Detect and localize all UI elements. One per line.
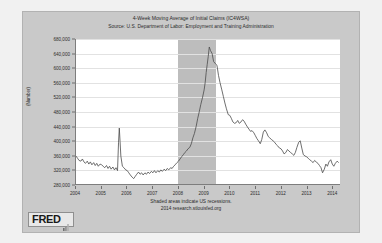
y-axis-tick-label: 560,000 bbox=[53, 80, 70, 85]
x-axis-tick bbox=[178, 186, 179, 189]
chart-subtitle: Source: U.S. Department of Labor: Employ… bbox=[23, 23, 359, 31]
x-axis-labels: 2004200520062007200820092010201120122013… bbox=[75, 186, 340, 198]
y-axis-tick-label: 520,000 bbox=[53, 95, 70, 100]
y-axis-tick-label: 280,000 bbox=[53, 183, 70, 188]
y-axis-tick-label: 440,000 bbox=[53, 124, 70, 129]
y-axis-tick-label: 600,000 bbox=[53, 66, 70, 71]
y-axis-labels: 680,000640,000600,000560,000520,000480,0… bbox=[23, 39, 75, 185]
series-line-1 bbox=[76, 47, 339, 179]
fred-chart-image: 4-Week Moving Average of Initial Claims … bbox=[22, 11, 360, 233]
x-axis-tick bbox=[75, 186, 76, 189]
series-line-layer bbox=[76, 39, 340, 184]
y-axis-tick-label: 640,000 bbox=[53, 51, 70, 56]
y-axis-tick-label: 360,000 bbox=[53, 153, 70, 158]
chart-footer: Shaded areas indicate US recessions. 201… bbox=[23, 198, 359, 212]
x-axis-tick bbox=[204, 186, 205, 189]
x-axis-tick-label: 2007 bbox=[147, 191, 157, 196]
x-axis-tick-label: 2006 bbox=[121, 191, 131, 196]
recession-note: Shaded areas indicate US recessions. bbox=[23, 198, 359, 205]
x-axis-tick-label: 2013 bbox=[301, 191, 311, 196]
x-axis-tick-label: 2010 bbox=[224, 191, 234, 196]
fred-logo-text: FRED bbox=[32, 214, 61, 225]
x-axis-tick bbox=[255, 186, 256, 189]
chart-titles: 4-Week Moving Average of Initial Claims … bbox=[23, 15, 359, 30]
x-axis-tick bbox=[126, 186, 127, 189]
fred-graph-mark-icon bbox=[63, 217, 70, 224]
x-axis-tick bbox=[229, 186, 230, 189]
y-axis-tick-label: 680,000 bbox=[53, 37, 70, 42]
x-axis-tick-label: 2012 bbox=[276, 191, 286, 196]
plot-area bbox=[75, 39, 340, 185]
fred-logo: FRED bbox=[28, 212, 74, 227]
x-axis-tick bbox=[152, 186, 153, 189]
x-axis-tick-label: 2008 bbox=[173, 191, 183, 196]
x-axis-tick bbox=[307, 186, 308, 189]
y-axis-tick-label: 480,000 bbox=[53, 110, 70, 115]
x-axis-tick-label: 2011 bbox=[250, 191, 260, 196]
x-axis-tick-label: 2004 bbox=[70, 191, 80, 196]
y-axis-tick-label: 400,000 bbox=[53, 139, 70, 144]
x-axis-tick bbox=[332, 186, 333, 189]
chart-title: 4-Week Moving Average of Initial Claims … bbox=[23, 15, 359, 23]
plot-inner bbox=[76, 39, 340, 184]
y-axis-tick-label: 320,000 bbox=[53, 168, 70, 173]
x-axis-tick bbox=[101, 186, 102, 189]
screenshot-root: 4-Week Moving Average of Initial Claims … bbox=[0, 0, 382, 243]
x-axis-tick bbox=[281, 186, 282, 189]
x-axis-tick-label: 2005 bbox=[96, 191, 106, 196]
x-axis-tick-label: 2014 bbox=[327, 191, 337, 196]
x-axis-tick-label: 2009 bbox=[199, 191, 209, 196]
